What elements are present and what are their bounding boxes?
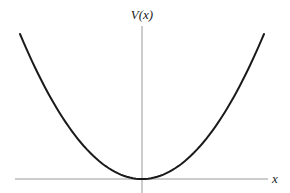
x-axis-label: x [271, 171, 278, 186]
y-axis-label: V(x) [131, 7, 153, 22]
parabola-chart: V(x) x [0, 0, 290, 193]
